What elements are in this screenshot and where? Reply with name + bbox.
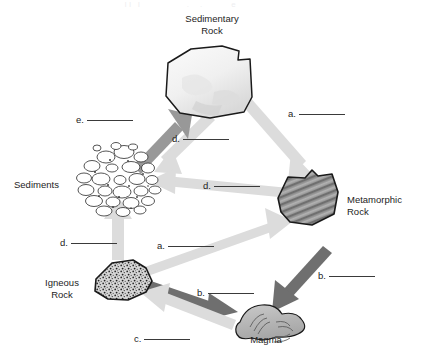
blank-rule[interactable] — [214, 186, 260, 187]
blank-rule[interactable] — [183, 139, 229, 140]
node-label-sediments: Sediments — [14, 179, 59, 191]
node-label-sedimentary-rock: Sedimentary Rock — [185, 13, 238, 36]
blank-e-sediments-to-sedimentary[interactable]: e. — [76, 114, 133, 125]
blank-b-igneous-to-magma[interactable]: b. — [197, 287, 254, 298]
blank-rule[interactable] — [71, 243, 117, 244]
node-label-metamorphic-rock: Metamorphic Rock — [347, 194, 402, 217]
rock-cycle-diagram: I I I . . e — [0, 0, 435, 361]
blank-rule[interactable] — [329, 276, 375, 277]
metamorphic-rock-shape — [278, 170, 338, 225]
blank-b-metamorphic-to-magma[interactable]: b. — [318, 270, 375, 281]
blank-rule[interactable] — [168, 246, 214, 247]
blank-rule[interactable] — [299, 114, 345, 115]
blank-rule[interactable] — [144, 339, 190, 340]
node-label-igneous-rock: Igneous Rock — [45, 277, 79, 300]
igneous-rock-shape — [95, 260, 152, 300]
blank-d-sedimentary-to-sediments[interactable]: d. — [172, 133, 229, 144]
blank-d-igneous-to-sediments[interactable]: d. — [60, 237, 117, 248]
node-label-magma: Magma — [250, 334, 282, 346]
blank-a-sedimentary-to-metamorphic[interactable]: a. — [288, 108, 345, 119]
blank-rule[interactable] — [208, 293, 254, 294]
sedimentary-rock-shape — [166, 46, 252, 118]
blank-rule[interactable] — [87, 120, 133, 121]
blank-d-metamorphic-to-sediments[interactable]: d. — [203, 180, 260, 191]
blank-a-igneous-to-metamorphic[interactable]: a. — [157, 240, 214, 251]
blank-c-magma-to-igneous[interactable]: c. — [134, 333, 190, 344]
